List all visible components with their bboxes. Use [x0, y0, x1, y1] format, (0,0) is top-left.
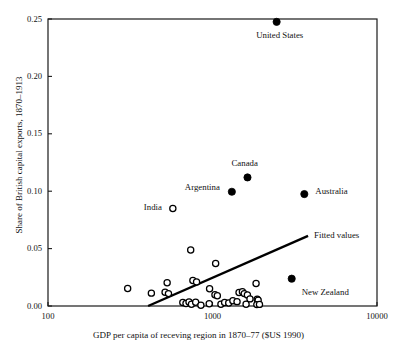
point-label-new-zealand: New Zealand	[302, 288, 349, 297]
x-tick-label: 1000	[183, 312, 243, 321]
fitted-values-label: Fitted values	[314, 231, 359, 240]
point-label-united-states: United States	[256, 31, 303, 40]
y-tick-label: 0.00	[0, 302, 42, 311]
y-tick-label: 0.25	[0, 15, 42, 24]
fitted-values-line	[148, 236, 308, 306]
point-label-australia: Australia	[315, 187, 347, 196]
data-points	[125, 18, 308, 308]
point-label-india: India	[144, 203, 162, 212]
x-axis-title: GDP per capita of receving region in 187…	[0, 330, 397, 340]
y-axis-title: Share of British capital exports, 1870–1…	[14, 60, 24, 250]
point-label-argentina: Argentina	[185, 183, 220, 192]
x-tick-label: 10000	[347, 312, 397, 321]
scatter-chart-figure: 0.000.050.100.150.200.25100100010000 Uni…	[0, 0, 397, 346]
point-label-canada: Canada	[231, 159, 257, 168]
x-tick-label: 100	[18, 312, 78, 321]
